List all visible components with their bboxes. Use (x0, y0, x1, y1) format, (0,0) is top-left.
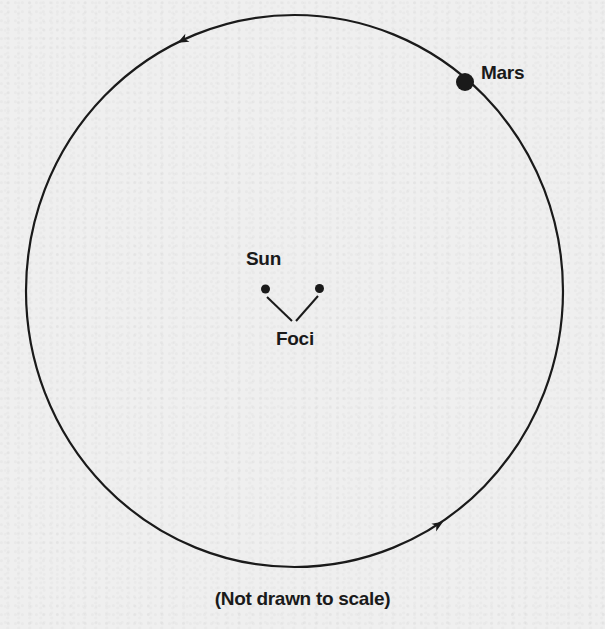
left-focus-dot (261, 285, 270, 294)
right-focus-dot (315, 284, 324, 293)
mars-planet-dot (456, 73, 474, 91)
foci-pointer-line-left (267, 297, 292, 321)
foci-label: Foci (276, 329, 314, 348)
orbit-direction-arrow-top-icon (176, 34, 190, 47)
orbit-ellipse (26, 15, 563, 567)
sun-label: Sun (246, 249, 281, 268)
mars-label: Mars (481, 63, 524, 82)
foci-pointer-line-right (296, 296, 318, 321)
figure-caption: (Not drawn to scale) (0, 589, 605, 608)
